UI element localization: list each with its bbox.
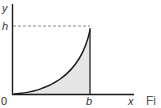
origin-label: 0	[1, 95, 7, 107]
x-axis-label: x	[127, 95, 134, 107]
y-axis-label: y	[1, 2, 9, 14]
figure-caption-fragment: Fi	[146, 94, 156, 108]
diagram-canvas: y h 0 b x Fi	[0, 0, 161, 108]
height-label: h	[2, 20, 8, 32]
b-label: b	[86, 95, 92, 107]
